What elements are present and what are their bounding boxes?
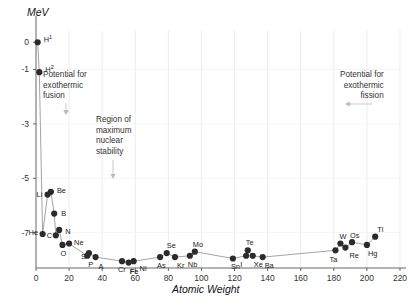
x-tick-label: 200 bbox=[354, 273, 380, 283]
point-label-nb: Nb bbox=[188, 260, 197, 269]
x-tick-label: 180 bbox=[321, 273, 347, 283]
x-tick-label: 160 bbox=[288, 273, 314, 283]
point-label-cr: Cr bbox=[118, 265, 126, 274]
x-tick-label: 140 bbox=[255, 273, 281, 283]
point-label-o: O bbox=[60, 249, 66, 258]
point-label-os: Os bbox=[350, 231, 359, 240]
point-label-li: Li bbox=[37, 190, 43, 199]
point-label-h: H1 bbox=[44, 34, 52, 44]
point-label-as: As bbox=[157, 261, 166, 270]
point-label-se: Se bbox=[167, 241, 176, 250]
point-label-fe: Fe bbox=[130, 267, 139, 276]
point-label-hg: Hg bbox=[368, 249, 377, 258]
annotation-line: Potential for bbox=[43, 70, 87, 81]
x-tick-label: 100 bbox=[188, 273, 214, 283]
point-label-ba: Ba bbox=[265, 261, 274, 270]
annotation-line: Potential for bbox=[340, 70, 384, 81]
annotation-line: fission bbox=[340, 91, 384, 102]
annotation-line: exothermic bbox=[340, 81, 384, 92]
annotation-line: stability bbox=[96, 147, 131, 158]
point-label-n: N bbox=[65, 227, 70, 236]
x-tick-label: 80 bbox=[155, 273, 181, 283]
y-axis-title: MeV bbox=[27, 6, 49, 18]
annotation-line: fusion bbox=[43, 91, 87, 102]
chart-root: MeV Atomic Weight 0-1-3-5-7 020406080100… bbox=[0, 0, 410, 305]
point-label-b: B bbox=[61, 209, 66, 218]
y-tick-label: -7 bbox=[9, 228, 29, 238]
point-label-tl: Tl bbox=[377, 225, 383, 234]
annotation-stability: Region ofmaximumnuclearstability bbox=[96, 115, 131, 157]
point-label-a: A bbox=[99, 262, 104, 271]
x-tick-label: 20 bbox=[56, 273, 82, 283]
x-tick-label: 120 bbox=[222, 273, 248, 283]
annotation-fusion: Potential forexothermicfusion bbox=[43, 70, 87, 102]
x-tick-label: 40 bbox=[89, 273, 115, 283]
y-tick-label: -5 bbox=[9, 173, 29, 183]
point-label-he: He bbox=[29, 228, 38, 237]
point-label-be: Be bbox=[57, 186, 66, 195]
x-tick-label: 0 bbox=[23, 273, 49, 283]
point-label-re: Re bbox=[349, 251, 358, 260]
point-label-c: C bbox=[47, 231, 52, 240]
point-label-s: S bbox=[81, 252, 86, 261]
annotation-fission: Potential forexothermicfission bbox=[340, 70, 384, 102]
point-label-w: W bbox=[339, 232, 346, 241]
point-label-sn: Sn bbox=[231, 262, 240, 271]
x-tick-label: 220 bbox=[387, 273, 410, 283]
annotation-line: maximum bbox=[96, 126, 131, 137]
x-axis-title: Atomic Weight bbox=[172, 283, 240, 295]
annotation-line: exothermic bbox=[43, 81, 87, 92]
annotation-line: Region of bbox=[96, 115, 131, 126]
point-label-mo: Mo bbox=[193, 240, 203, 249]
point-label-p: P bbox=[88, 260, 93, 269]
annotation-line: nuclear bbox=[96, 136, 131, 147]
point-label-ni: Ni bbox=[140, 264, 147, 273]
y-tick-label: -1 bbox=[9, 64, 29, 74]
point-label-kr: Kr bbox=[177, 261, 184, 270]
point-label-i: I bbox=[240, 260, 242, 269]
y-tick-label: 0 bbox=[9, 37, 29, 47]
point-label-xe: Xe bbox=[254, 260, 263, 269]
point-label-ne: Ne bbox=[74, 238, 83, 247]
y-tick-label: -3 bbox=[9, 119, 29, 129]
point-label-te: Te bbox=[246, 238, 254, 247]
point-label-ta: Ta bbox=[329, 255, 337, 264]
